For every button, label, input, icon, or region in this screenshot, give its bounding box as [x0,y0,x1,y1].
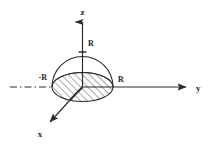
z-axis-label: z [81,7,85,17]
y-positive-radius-label: R [118,75,124,84]
x-axis-line [50,100,70,122]
x-axis-label: x [38,129,43,139]
y-axis-label: y [196,83,201,93]
hemisphere-diagram: z R -R R y x [0,0,215,148]
z-radius-tick-label: R [88,39,94,48]
diagram-canvas: z R -R R y x [0,0,215,148]
y-negative-radius-label: -R [39,73,48,82]
